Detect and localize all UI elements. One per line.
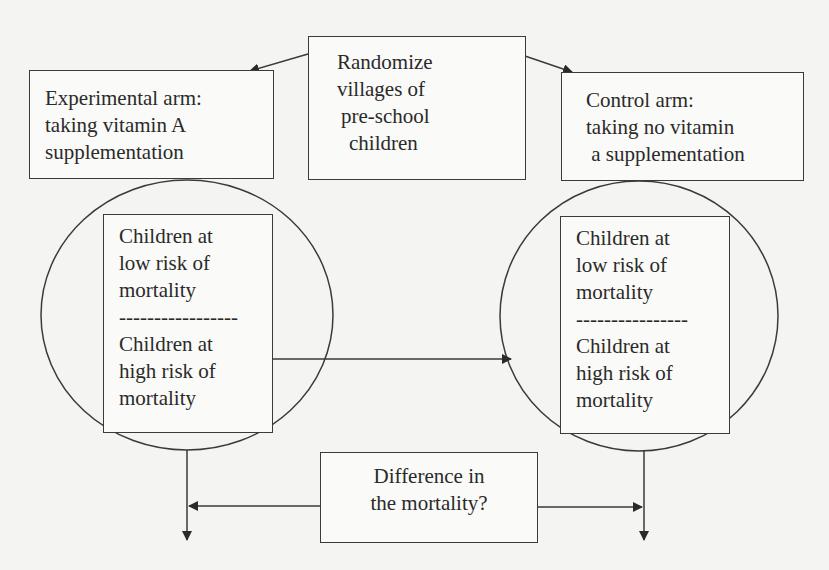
randomize-villages-box: Randomize villages of pre-school childre… xyxy=(308,36,526,180)
exp-separator: ----------------- xyxy=(119,304,272,331)
root-line-3: pre-school xyxy=(337,103,525,130)
ctrl-low-risk-3: mortality xyxy=(576,279,729,306)
exp-low-risk-2: low risk of xyxy=(119,250,272,277)
outcome-line-1: Difference in xyxy=(321,463,537,490)
arrow-root-to-experimental xyxy=(250,54,308,71)
ctrl-high-risk-1: Children at xyxy=(576,333,729,360)
experimental-line-2: taking vitamin A xyxy=(45,112,273,139)
ctrl-low-risk-2: low risk of xyxy=(576,252,729,279)
ctrl-high-risk-3: mortality xyxy=(576,387,729,414)
exp-high-risk-3: mortality xyxy=(119,385,272,412)
root-line-1: Randomize xyxy=(337,49,525,76)
root-line-2: villages of xyxy=(337,76,525,103)
root-line-4: children xyxy=(337,130,525,157)
exp-low-risk-3: mortality xyxy=(119,277,272,304)
experimental-arm-box: Experimental arm: taking vitamin A suppl… xyxy=(29,70,274,179)
control-line-1: Control arm: xyxy=(586,87,803,114)
exp-high-risk-1: Children at xyxy=(119,331,272,358)
experimental-group-box: Children at low risk of mortality ------… xyxy=(103,214,273,433)
exp-low-risk-1: Children at xyxy=(119,223,272,250)
experimental-line-1: Experimental arm: xyxy=(45,85,273,112)
control-line-3: a supplementation xyxy=(586,141,803,168)
control-group-box: Children at low risk of mortality ------… xyxy=(560,216,730,434)
ctrl-high-risk-2: high risk of xyxy=(576,360,729,387)
ctrl-separator: ---------------- xyxy=(576,306,729,333)
control-arm-box: Control arm: taking no vitamin a supplem… xyxy=(561,72,804,181)
experimental-line-3: supplementation xyxy=(45,139,273,166)
mortality-difference-box: Difference in the mortality? xyxy=(320,452,538,543)
outcome-line-2: the mortality? xyxy=(321,490,537,517)
arrow-root-to-control xyxy=(525,56,572,72)
exp-high-risk-2: high risk of xyxy=(119,358,272,385)
ctrl-low-risk-1: Children at xyxy=(576,225,729,252)
control-line-2: taking no vitamin xyxy=(586,114,803,141)
